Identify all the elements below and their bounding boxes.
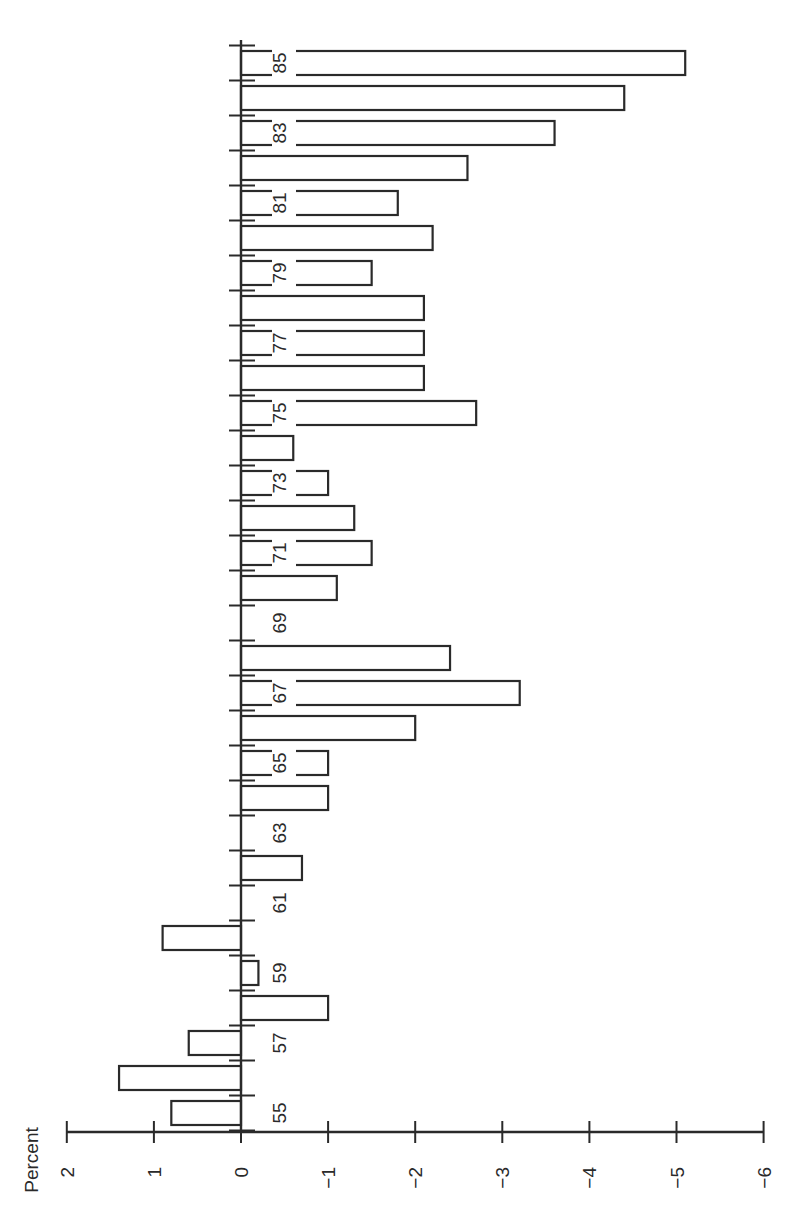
category-label-57: 57 — [269, 1032, 290, 1053]
bar-80 — [241, 226, 433, 250]
category-label-81: 81 — [269, 192, 290, 213]
bar-84 — [241, 86, 624, 110]
value-tick-label: −5 — [667, 1167, 688, 1189]
category-label-65: 65 — [269, 752, 290, 773]
bar-74 — [241, 436, 293, 460]
bar-58 — [241, 996, 328, 1020]
category-label-77: 77 — [269, 332, 290, 353]
category-label-75: 75 — [269, 402, 290, 423]
bar-79 — [241, 261, 372, 285]
bar-71 — [241, 541, 372, 565]
value-tick-label: 0 — [231, 1167, 252, 1178]
bar-82 — [241, 156, 467, 180]
axis-label-percent: Percent — [21, 1127, 42, 1193]
category-label-71: 71 — [269, 542, 290, 563]
bar-81 — [241, 191, 398, 215]
bar-60 — [163, 926, 241, 950]
category-label-63: 63 — [269, 822, 290, 843]
category-label-85: 85 — [269, 52, 290, 73]
category-label-69: 69 — [269, 612, 290, 633]
category-label-83: 83 — [269, 122, 290, 143]
category-label-67: 67 — [269, 682, 290, 703]
category-label-73: 73 — [269, 472, 290, 493]
bar-62 — [241, 856, 302, 880]
value-tick-label: −4 — [579, 1167, 600, 1189]
bar-55 — [171, 1101, 241, 1125]
category-label-61: 61 — [269, 892, 290, 913]
bar-76 — [241, 366, 424, 390]
value-axis: 210−1−2−3−4−5−6 — [57, 1121, 775, 1189]
value-tick-label: −3 — [492, 1167, 513, 1189]
bar-56 — [119, 1066, 241, 1090]
bar-72 — [241, 506, 354, 530]
bar-64 — [241, 786, 328, 810]
bar-59 — [241, 961, 258, 985]
value-tick-label: 2 — [57, 1167, 78, 1178]
bar-85 — [241, 51, 685, 75]
category-label-55: 55 — [269, 1102, 290, 1123]
value-tick-label: −2 — [405, 1167, 426, 1189]
category-label-79: 79 — [269, 262, 290, 283]
bar-68 — [241, 646, 450, 670]
bars-group — [119, 51, 685, 1125]
value-tick-label: 1 — [144, 1167, 165, 1178]
value-tick-label: −6 — [754, 1167, 775, 1189]
bar-78 — [241, 296, 424, 320]
bar-chart: 55575961636567697173757779818385 210−1−2… — [0, 0, 801, 1216]
bar-57 — [189, 1031, 241, 1055]
value-tick-label: −1 — [318, 1167, 339, 1189]
bar-66 — [241, 716, 415, 740]
category-label-59: 59 — [269, 962, 290, 983]
bar-70 — [241, 576, 337, 600]
